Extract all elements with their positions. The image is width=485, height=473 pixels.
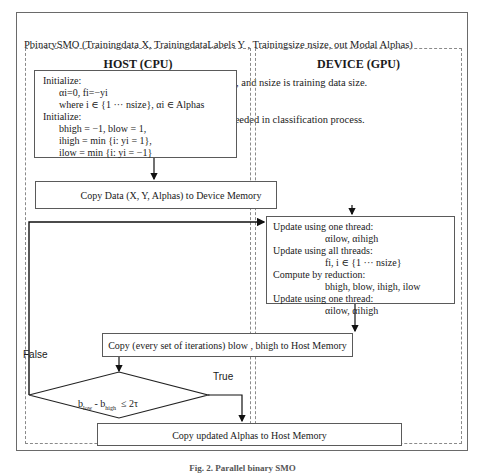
init-line: ihigh = min {i: yi = 1},: [43, 135, 228, 147]
cond-minus: - b: [92, 398, 105, 409]
true-label: True: [213, 371, 233, 382]
cond-low: low: [83, 405, 92, 411]
init-line: ilow = min {i: yi = −1}: [43, 147, 228, 159]
init-line: αi=0, fi=−yi: [43, 87, 228, 99]
figure-caption: Fig. 2. Parallel binary SMO: [0, 463, 485, 473]
final-copy-box: Copy updated Alphas to Host Memory: [97, 423, 402, 446]
device-line: Update using one thread:: [273, 293, 448, 305]
init-line: Initialize:: [43, 111, 228, 123]
cond-high: high: [105, 405, 116, 411]
device-line: αilow, αihigh: [273, 233, 448, 245]
device-line: Update using one thread:: [273, 221, 448, 233]
device-line: bhigh, blow, ihigh, ilow: [273, 281, 448, 293]
device-line: Update using all threads:: [273, 245, 448, 257]
device-update-box: Update using one thread: αilow, αihigh U…: [266, 216, 455, 304]
initialize-box: Initialize: αi=0, fi=−yi where i ∈ {1 ··…: [34, 70, 237, 158]
copy-to-device-box: Copy Data (X, Y, Alphas) to Device Memor…: [35, 181, 277, 209]
device-line: Compute by reduction:: [273, 269, 448, 281]
convergence-condition: blow - bhigh ≤ 2τ: [78, 398, 138, 411]
false-label: False: [23, 349, 47, 360]
cond-rest: ≤ 2τ: [116, 398, 138, 409]
init-line: where i ∈ {1 ··· nsize}, αi ∈ Alphas: [43, 99, 228, 111]
init-line: bhigh = −1, blow = 1,: [43, 123, 228, 135]
copy-to-host-box: Copy (every set of iterations) blow , bh…: [102, 333, 353, 357]
init-line: Initialize:: [43, 75, 228, 87]
device-line: αilow, αihigh: [273, 305, 448, 317]
device-line: fi, i ∈ {1 ··· nsize}: [273, 257, 448, 269]
